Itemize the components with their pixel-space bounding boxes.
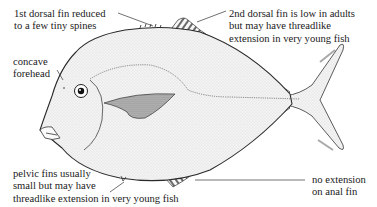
leader-second-dorsal <box>197 11 226 22</box>
label-line: to a few tiny spines <box>14 20 106 32</box>
label-line: but may have threadlike <box>229 20 355 32</box>
label-line: concave <box>13 56 50 68</box>
label-line: 1st dorsal fin reduced <box>14 8 106 20</box>
label-line: pelvic fins usually <box>13 168 179 180</box>
label-line: forehead <box>13 68 50 80</box>
label-line: small but may have <box>13 180 179 192</box>
fish-body <box>40 27 292 180</box>
label-line: no extension <box>312 174 366 186</box>
label-second-dorsal-fin: 2nd dorsal fin is low in adults but may … <box>229 8 355 45</box>
label-line: extension in very young fish <box>229 33 355 45</box>
label-concave-forehead: concave forehead <box>13 56 50 81</box>
label-line: threadlike extension in very young fish <box>13 193 179 205</box>
label-anal-fin: no extension on anal fin <box>312 174 366 199</box>
leader-first-dorsal <box>118 13 153 26</box>
label-line: 2nd dorsal fin is low in adults <box>229 8 355 20</box>
label-line: on anal fin <box>312 186 366 198</box>
label-first-dorsal-fin: 1st dorsal fin reduced to a few tiny spi… <box>14 8 106 33</box>
label-pelvic-fins: pelvic fins usually small but may have t… <box>13 168 179 205</box>
caudal-fin <box>285 44 344 149</box>
